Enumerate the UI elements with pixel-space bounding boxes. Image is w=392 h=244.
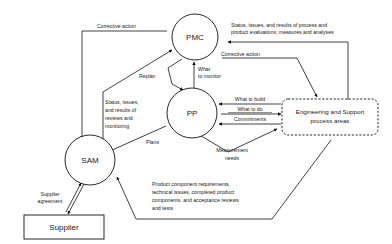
edge-label-product-component-line3: components, and acceptance reviews	[152, 197, 239, 203]
edge-label-status-issues-reviews-line2: and results of	[105, 107, 137, 113]
edge-label-supplier-agreement-line1: Supplier	[40, 191, 59, 197]
node-engineering-support-label-line2: process areas	[311, 117, 350, 124]
node-pp[interactable]: PP	[167, 88, 217, 138]
edge-label-what-to-do: What to do	[237, 106, 262, 112]
node-engineering-support-label-line1: Engineering and Support	[296, 108, 365, 115]
edge-label-commitments: Commitments	[234, 116, 266, 122]
edge-label-corrective-action-to-sam: Corrective action	[97, 23, 136, 29]
edge-label-status-issues-reviews-line4: monitoring	[105, 123, 129, 129]
edge-corrective-action-to-engineering	[222, 58, 317, 97]
edge-label-supplier-agreement-line2: agreement	[38, 198, 63, 204]
edge-label-what-to-monitor-line2: to monitor	[198, 73, 221, 79]
edge-label-measurement-needs-line1: Measurement	[216, 147, 248, 153]
node-supplier[interactable]: Supplier	[24, 215, 104, 239]
edge-label-what-to-monitor-line1: What	[198, 66, 211, 72]
edge-label-status-issues-process-line2: product evaluations; measures and analys…	[231, 29, 334, 35]
edge-label-status-issues-process-line1: Status, issues, and results of process a…	[231, 22, 327, 28]
edge-label-what-to-build: What to build	[235, 96, 265, 102]
edge-label-replan: Replan	[139, 73, 156, 79]
diagram-canvas: PMC PP SAM Supplier Engineering and Supp…	[0, 0, 392, 244]
edge-label-corrective-action-from-engineering: Corrective action	[221, 51, 260, 57]
node-pmc[interactable]: PMC	[172, 14, 218, 60]
node-sam-label: SAM	[81, 156, 99, 165]
node-sam[interactable]: SAM	[65, 135, 115, 185]
edge-label-status-issues-reviews-line3: reviews and	[105, 115, 133, 121]
edge-label-measurement-needs-line2: needs	[225, 155, 240, 161]
edge-supplier-agreement-down	[68, 184, 84, 214]
node-pp-label: PP	[187, 109, 198, 118]
edge-supplier-agreement-up	[66, 183, 81, 212]
edge-label-product-component-line4: and tests	[152, 205, 173, 211]
edge-label-status-issues-reviews-line1: Status, issues,	[105, 99, 139, 105]
node-engineering-support[interactable]: Engineering and Support process areas	[282, 99, 378, 135]
edge-label-product-component-line1: Product component requirements,	[152, 181, 230, 187]
edge-label-plans: Plans	[146, 139, 159, 145]
node-supplier-label: Supplier	[49, 223, 79, 232]
edge-label-product-component-line2: technical issues, completed product	[152, 189, 235, 195]
edge-replan	[168, 59, 183, 90]
node-pmc-label: PMC	[186, 33, 204, 42]
